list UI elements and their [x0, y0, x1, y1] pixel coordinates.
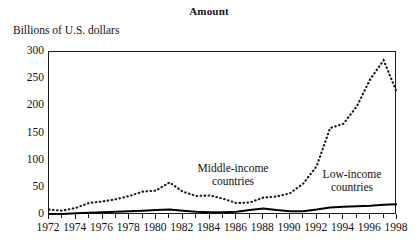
series-label-low-income-line1: Low-income: [316, 168, 388, 181]
x-tick-mark: [316, 214, 317, 219]
x-tick-mark: [115, 214, 116, 218]
x-tick-mark: [289, 214, 290, 219]
x-tick-mark: [195, 214, 196, 218]
series-label-middle-income: Middle-income countries: [195, 162, 271, 187]
x-tick-mark: [155, 214, 156, 219]
x-tick-mark: [142, 214, 143, 218]
series-label-middle-income-line1: Middle-income: [195, 162, 271, 175]
series-line-low-income: [49, 204, 397, 214]
y-tick-label: 100: [14, 154, 44, 166]
x-tick-mark: [276, 214, 277, 218]
x-tick-mark: [302, 214, 303, 218]
chart-title: Amount: [0, 5, 418, 17]
x-tick-mark: [235, 214, 236, 219]
series-label-middle-income-line2: countries: [195, 175, 271, 188]
x-tick-mark: [88, 214, 89, 218]
x-tick-mark: [356, 214, 357, 218]
x-tick-mark: [48, 214, 49, 219]
x-tick-label: 1998: [379, 221, 413, 233]
x-tick-mark: [182, 214, 183, 219]
x-tick-mark: [369, 214, 370, 219]
y-axis-tick-labels: 050100150200250300: [10, 0, 44, 248]
y-tick-label: 200: [14, 99, 44, 111]
chart-figure: Amount Billions of U.S. dollars 05010015…: [0, 0, 418, 248]
x-tick-mark: [128, 214, 129, 219]
y-tick-label: 0: [14, 208, 44, 220]
x-tick-mark: [383, 214, 384, 218]
x-tick-mark: [262, 214, 263, 219]
x-tick-mark: [249, 214, 250, 218]
series-label-low-income: Low-income countries: [316, 168, 388, 193]
x-tick-mark: [329, 214, 330, 218]
x-tick-mark: [222, 214, 223, 218]
x-tick-mark: [75, 214, 76, 219]
x-tick-mark: [342, 214, 343, 219]
x-tick-mark: [396, 214, 397, 219]
x-tick-mark: [209, 214, 210, 219]
y-tick-label: 300: [14, 45, 44, 57]
y-tick-label: 50: [14, 181, 44, 193]
x-tick-mark: [168, 214, 169, 218]
series-label-low-income-line2: countries: [316, 181, 388, 194]
x-tick-mark: [61, 214, 62, 218]
y-tick-label: 150: [14, 127, 44, 139]
y-tick-label: 250: [14, 72, 44, 84]
x-tick-mark: [102, 214, 103, 219]
